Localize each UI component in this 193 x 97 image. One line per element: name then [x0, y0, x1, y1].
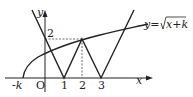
y-axis-label: y	[36, 6, 44, 19]
graph-diagram: y x O -k 1 2 3 2 y= x+k	[0, 0, 193, 97]
tick-label-3: 3	[98, 79, 105, 92]
x-axis-label: x	[136, 74, 143, 87]
y-tick-label-2: 2	[47, 27, 54, 40]
y-axis-arrow-icon	[43, 10, 48, 17]
curve-label-radicand: x+k	[166, 18, 188, 31]
tick-label-1: 1	[61, 79, 68, 92]
tick-label-2: 2	[79, 79, 86, 92]
tick-label-neg-k: -k	[12, 79, 23, 92]
curve-label-lhs: y=	[143, 18, 159, 31]
origin-label: O	[36, 79, 45, 92]
zigzag-graph	[32, 10, 134, 78]
x-axis-arrow-icon	[146, 76, 153, 81]
